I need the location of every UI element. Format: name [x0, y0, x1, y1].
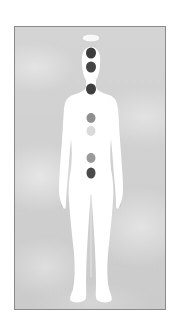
human-silhouette: [15, 27, 166, 310]
sacral-chakra-dot: [87, 153, 96, 163]
throat-chakra-dot: [86, 84, 96, 95]
chakra-card: [14, 26, 166, 310]
third-eye-chakra-dot: [86, 48, 96, 59]
crown-chakra-halo: [82, 34, 100, 42]
heart-chakra-dot: [87, 113, 96, 123]
faint-header-text: [95, 2, 165, 8]
throat-upper-chakra-dot: [86, 62, 96, 73]
root-chakra-dot: [87, 168, 96, 179]
solar-plexus-chakra-dot: [87, 126, 96, 136]
